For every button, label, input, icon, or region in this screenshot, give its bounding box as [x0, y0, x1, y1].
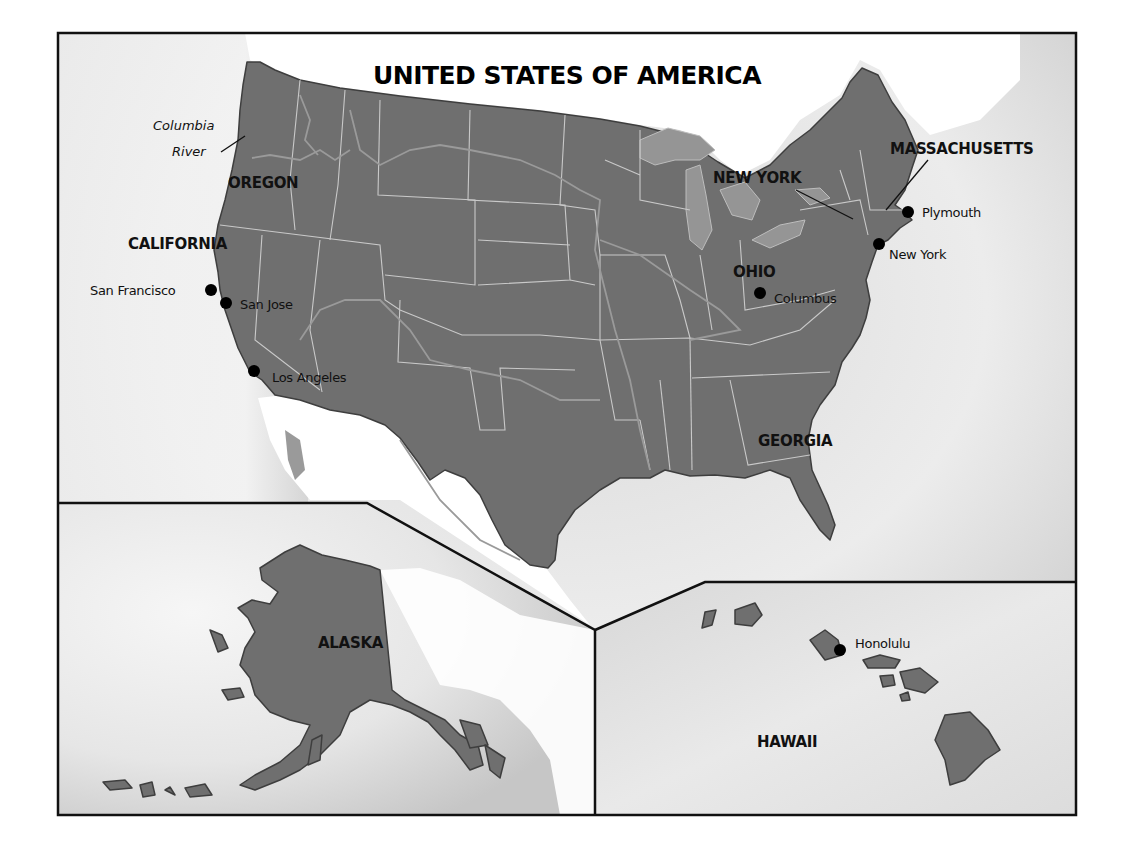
river-label-line2: River: [172, 144, 207, 159]
state-label-massachusetts: MASSACHUSETTS: [890, 140, 1034, 158]
city-dot: [220, 297, 232, 309]
state-label-ohio: OHIO: [733, 263, 775, 281]
map-title: UNITED STATES OF AMERICA: [373, 61, 762, 90]
state-label-oregon: OREGON: [228, 174, 298, 192]
city-label: Plymouth: [922, 205, 981, 220]
state-label-california: CALIFORNIA: [128, 235, 228, 253]
alaska-label: ALASKA: [318, 634, 384, 652]
hawaii-inset: Honolulu HAWAII: [595, 582, 1076, 815]
city-dot: [873, 238, 885, 250]
city-label: New York: [889, 247, 947, 262]
city-dot: [902, 206, 914, 218]
city-dot: [248, 365, 260, 377]
city-label: San Francisco: [90, 283, 176, 298]
city-label: Columbus: [774, 291, 837, 306]
us-map: UNITED STATES OF AMERICA Columbia River …: [0, 0, 1127, 863]
city-dot: [205, 284, 217, 296]
hawaii-label: HAWAII: [757, 733, 817, 751]
city-dot: [754, 287, 766, 299]
state-label-new-york: NEW YORK: [713, 169, 803, 187]
city-dot: [834, 644, 846, 656]
city-label: San Jose: [240, 297, 293, 312]
river-label-line1: Columbia: [153, 118, 214, 133]
city-label: Los Angeles: [272, 370, 347, 385]
state-label-georgia: GEORGIA: [758, 432, 833, 450]
city-label: Honolulu: [855, 636, 910, 651]
